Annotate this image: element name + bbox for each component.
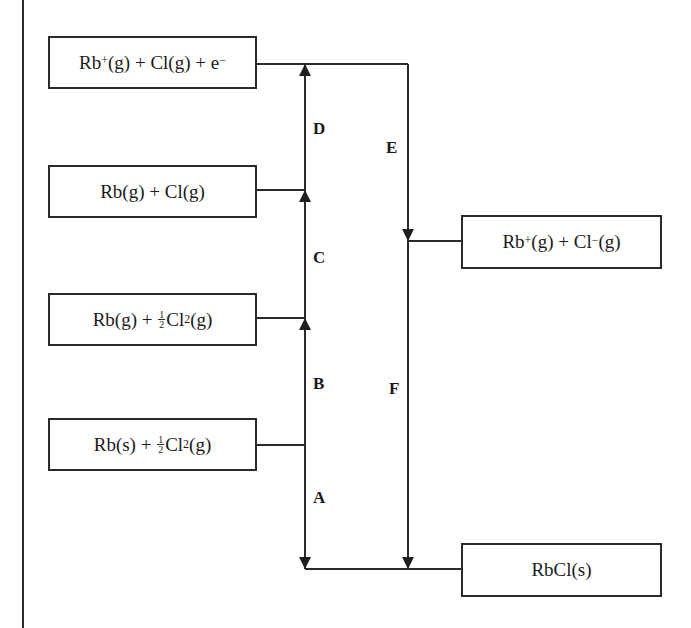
denominator: 2 [158,320,165,329]
text: Rb(s) + [94,434,156,456]
arrow-f-head [402,557,414,569]
arrow-b-head [299,318,311,330]
text: (g) [189,434,211,456]
arrow-c-head [299,190,311,202]
text: (g) + Cl [531,231,591,253]
arrow-d-head [299,64,311,76]
arrow-e-head [402,229,414,241]
level-gaseous-rb-half-cl2: Rb(g) + 12Cl2(g) [48,293,257,346]
fraction-one-half: 12 [157,435,164,454]
charge: + [525,233,532,248]
charge: − [219,53,226,68]
level-standard-elements: Rb(s) + 12Cl2(g) [48,418,257,471]
text: (g) [598,231,620,253]
text: (g) [190,309,212,331]
text: Rb [79,52,101,74]
arrow-a-head [299,557,311,569]
charge: + [101,53,108,68]
step-label-d: D [313,119,325,139]
text: Cl [166,309,184,331]
text: Rb(g) + Cl(g) [100,181,205,203]
level-gaseous-atoms: Rb(g) + Cl(g) [48,165,257,218]
text: Cl [165,434,183,456]
denominator: 2 [157,445,164,454]
charge: − [592,233,599,248]
step-label-b: B [313,374,324,394]
fraction-one-half: 12 [158,310,165,329]
text: Rb [502,231,524,253]
level-gaseous-ions: Rb+(g) + Cl−(g) [461,215,662,269]
text: RbCl(s) [531,559,591,581]
text: (g) + Cl(g) + e [108,52,219,74]
text: Rb(g) + [93,309,158,331]
step-label-e: E [386,138,397,158]
step-label-f: F [389,379,399,399]
level-ionic-solid: RbCl(s) [461,543,662,597]
level-ionized-gas-atoms: Rb+(g) + Cl(g) + e− [48,36,257,89]
step-label-a: A [313,488,325,508]
step-label-c: C [313,248,325,268]
